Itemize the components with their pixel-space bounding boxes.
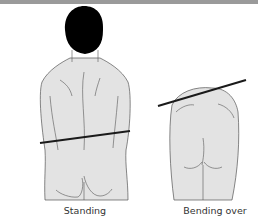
bending-figure	[158, 80, 246, 200]
illustration	[0, 0, 258, 222]
standing-label: Standing	[55, 205, 115, 216]
standing-figure	[40, 6, 130, 200]
bending-over-label: Bending over	[175, 205, 255, 216]
